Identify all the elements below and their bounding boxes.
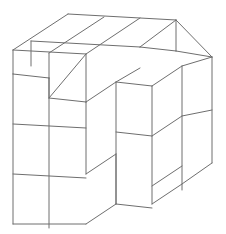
recess-face-upper bbox=[116, 104, 152, 154]
cube-stack-figure bbox=[0, 0, 226, 234]
front-face-r1c1 bbox=[13, 74, 50, 124]
recess-face-lower bbox=[116, 154, 152, 204]
front-face-r2c2 bbox=[50, 124, 87, 174]
front-face-r2c1 bbox=[13, 124, 50, 174]
isometric-cube-stack-drawing bbox=[0, 0, 226, 234]
front-face-r3c2 bbox=[50, 174, 87, 224]
front-face-r3c1 bbox=[13, 174, 50, 224]
